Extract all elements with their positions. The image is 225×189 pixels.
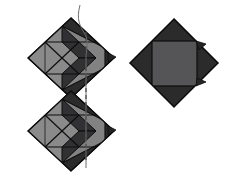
background	[0, 0, 225, 189]
right-inner-square	[152, 41, 197, 86]
figure-canvas: Two geometric diamond constructions	[0, 0, 225, 189]
right-inner-group	[152, 41, 197, 86]
geometry-figure	[0, 0, 225, 189]
